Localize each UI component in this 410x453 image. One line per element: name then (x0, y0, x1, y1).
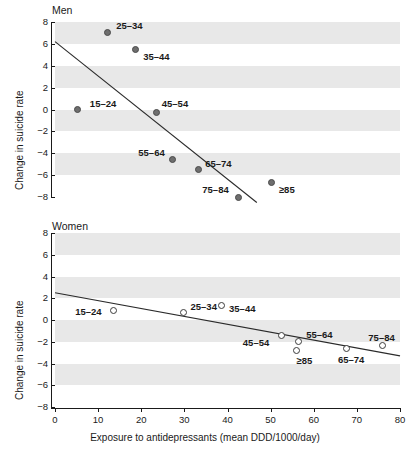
x-tick-mark (184, 408, 185, 412)
x-tick-label: 50 (256, 415, 286, 425)
panel-men: Men Change in suicide rate 15–2425–3435–… (0, 0, 410, 215)
data-point-label: 25–34 (191, 302, 217, 312)
y-tick-label: 8 (27, 17, 48, 27)
y-tick-mark (51, 22, 55, 23)
x-tick-mark (228, 408, 229, 412)
data-point-label: 45–54 (162, 99, 188, 109)
y-tick-label: 0 (27, 105, 48, 115)
background-bands-women (55, 233, 400, 407)
plot-area-men: 15–2425–3435–4445–5455–6465–7475–84≥85 (55, 22, 400, 197)
data-point-label: 35–44 (229, 304, 255, 314)
panel-women: Women Change in suicide rate 15–2425–343… (0, 215, 410, 453)
y-tick-label: −4 (27, 359, 48, 369)
y-tick-mark (51, 88, 55, 89)
x-tick-mark (271, 408, 272, 412)
y-tick-mark (51, 342, 55, 343)
data-point-label: 25–34 (116, 21, 142, 31)
data-point (295, 338, 302, 345)
y-tick-label: −8 (27, 402, 48, 412)
data-point-label: 15–24 (75, 307, 101, 317)
data-point (293, 347, 300, 354)
y-tick-label: 4 (27, 272, 48, 282)
y-tick-label: −6 (27, 170, 48, 180)
x-axis-label: Exposure to antidepressants (mean DDD/10… (0, 432, 410, 443)
data-point-label: 75–84 (368, 333, 394, 343)
data-point (218, 302, 225, 309)
y-tick-label: 6 (27, 250, 48, 260)
data-point (110, 307, 117, 314)
plot-area-women: 15–2425–3435–4445–5455–64≥8565–7475–84 (55, 233, 400, 407)
x-tick-label: 30 (169, 415, 199, 425)
y-tick-mark (51, 320, 55, 321)
y-tick-mark (51, 364, 55, 365)
x-tick-mark (314, 408, 315, 412)
y-tick-label: 2 (27, 83, 48, 93)
y-tick-mark (51, 255, 55, 256)
data-point-label: 65–74 (338, 355, 364, 365)
data-point-label: 35–44 (143, 52, 169, 62)
y-tick-mark (51, 197, 55, 198)
data-point-label: 15–24 (90, 99, 116, 109)
y-tick-mark (51, 66, 55, 67)
y-tick-mark (51, 233, 55, 234)
background-band (55, 320, 400, 342)
x-tick-label: 70 (342, 415, 372, 425)
y-tick-mark (51, 175, 55, 176)
x-tick-mark (55, 408, 56, 412)
x-tick-mark (98, 408, 99, 412)
y-tick-label: −8 (27, 192, 48, 202)
y-tick-label: 0 (27, 315, 48, 325)
figure-root: Men Change in suicide rate 15–2425–3435–… (0, 0, 410, 453)
panel-title-women: Women (52, 220, 88, 232)
x-tick-label: 0 (40, 415, 70, 425)
background-band (55, 66, 400, 88)
y-tick-mark (51, 131, 55, 132)
panel-title-men: Men (52, 4, 72, 16)
x-tick-mark (400, 408, 401, 412)
data-point-label: 45–54 (243, 338, 269, 348)
background-band (55, 364, 400, 386)
data-point (132, 46, 139, 53)
y-tick-mark (51, 153, 55, 154)
y-tick-label: −4 (27, 148, 48, 158)
data-point (195, 166, 202, 173)
x-tick-label: 10 (83, 415, 113, 425)
y-axis-label-men: Change in suicide rate (14, 90, 25, 190)
data-point-label: 65–74 (205, 159, 231, 169)
background-band (55, 110, 400, 132)
background-band (55, 233, 400, 255)
data-point-label: 75–84 (202, 185, 228, 195)
y-tick-label: 4 (27, 61, 48, 71)
x-axis-women (51, 408, 401, 409)
x-tick-label: 20 (126, 415, 156, 425)
background-band (55, 277, 400, 299)
y-tick-mark (51, 385, 55, 386)
y-tick-mark (51, 298, 55, 299)
x-tick-label: 80 (385, 415, 410, 425)
data-point-label: ≥85 (279, 185, 295, 195)
y-tick-mark (51, 277, 55, 278)
x-tick-mark (141, 408, 142, 412)
x-tick-mark (357, 408, 358, 412)
y-axis-label-women: Change in suicide rate (14, 300, 25, 400)
background-bands-men (55, 22, 400, 197)
data-point-label: 55–64 (138, 148, 164, 158)
data-point (180, 309, 187, 316)
y-tick-mark (51, 44, 55, 45)
x-tick-label: 60 (299, 415, 329, 425)
y-tick-label: −2 (27, 126, 48, 136)
y-tick-label: −6 (27, 380, 48, 390)
data-point-label: 55–64 (306, 330, 332, 340)
y-tick-label: −2 (27, 337, 48, 347)
data-point-label: ≥85 (297, 356, 313, 366)
y-tick-label: 6 (27, 39, 48, 49)
x-tick-label: 40 (213, 415, 243, 425)
y-tick-label: 8 (27, 228, 48, 238)
data-point (235, 194, 242, 201)
y-tick-label: 2 (27, 293, 48, 303)
y-tick-mark (51, 110, 55, 111)
